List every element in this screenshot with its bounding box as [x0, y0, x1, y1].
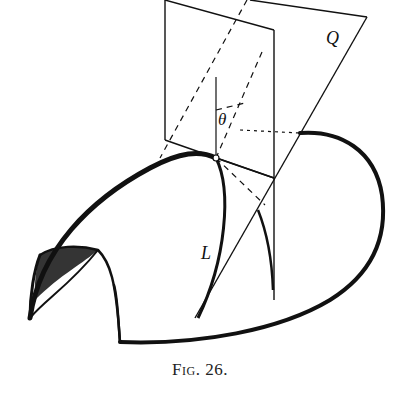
angle-theta-label: θ [218, 110, 226, 130]
curve-l [198, 158, 225, 318]
curved-surface [30, 133, 383, 343]
tangent-line [216, 158, 274, 178]
hollow-shading [35, 247, 98, 300]
construction-lines [160, 0, 300, 205]
figure-caption: Fig. 26. [0, 360, 400, 380]
diagram-figure: Q θ L [0, 0, 400, 360]
cusp-curve [258, 210, 273, 290]
surface-with-planes-drawing [0, 0, 400, 360]
caption-prefix: Fig. [172, 360, 200, 379]
contact-point [213, 155, 219, 161]
plane-q-label: Q [326, 28, 339, 49]
caption-number: 26. [205, 360, 228, 379]
curve-l-label: L [201, 243, 211, 264]
